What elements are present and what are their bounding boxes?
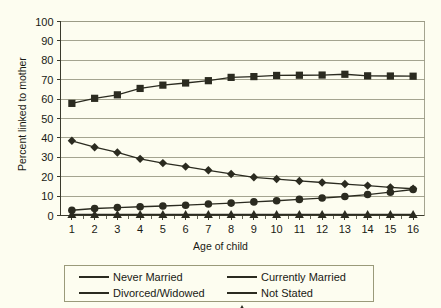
data-point-circle (341, 193, 349, 201)
data-point-circle (250, 198, 258, 206)
data-point-square (182, 79, 189, 86)
data-point-square (410, 73, 417, 80)
y-axis-tick-label: 0 (47, 210, 53, 222)
x-axis-tick-label: 4 (137, 223, 143, 235)
data-point-circle (136, 203, 144, 211)
legend-label: Not Stated (261, 287, 313, 299)
legend-marker-diamond-icon (79, 271, 109, 283)
data-point-square (341, 71, 348, 78)
data-point-circle (296, 196, 304, 204)
x-axis-tick-label: 7 (205, 223, 211, 235)
chart-legend: Never Married Currently Married Divorced… (64, 265, 374, 302)
x-axis-title: Age of child (0, 240, 441, 252)
y-axis-tick-label: 70 (41, 74, 53, 86)
data-point-square (114, 91, 121, 98)
x-axis-tick-label: 2 (92, 223, 98, 235)
legend-label: Currently Married (261, 271, 346, 283)
y-axis-tick-label: 80 (41, 54, 53, 66)
data-point-square (319, 71, 326, 78)
data-point-circle (364, 191, 372, 199)
x-axis-tick-label: 10 (271, 223, 283, 235)
data-point-circle (409, 186, 417, 194)
data-point-circle (205, 200, 213, 208)
legend-item-divorced-widowed: Divorced/Widowed (79, 286, 205, 300)
x-axis-tick-label: 8 (228, 223, 234, 235)
data-point-square (205, 77, 212, 84)
legend-marker-square-icon (227, 271, 257, 283)
data-point-square (296, 72, 303, 79)
y-axis-tick-label: 40 (41, 132, 53, 144)
y-axis-tick-label: 20 (41, 171, 53, 183)
x-axis-tick-label: 11 (294, 223, 305, 235)
x-axis-tick-label: 13 (339, 223, 351, 235)
x-axis-tick-label: 14 (362, 223, 374, 235)
legend-item-not-stated: Not Stated (227, 286, 313, 300)
x-axis-tick-label: 16 (407, 223, 419, 235)
chart-plot-area: 0102030405060708090100123456789101112131… (0, 0, 441, 308)
data-point-circle (182, 201, 190, 209)
data-point-circle (387, 188, 395, 196)
y-axis-tick-label: 10 (41, 190, 53, 202)
x-axis-tick-label: 12 (316, 223, 328, 235)
y-axis-tick-label: 100 (35, 16, 53, 28)
x-axis-tick-label: 9 (251, 223, 257, 235)
data-point-square (387, 72, 394, 79)
data-point-square (228, 74, 235, 81)
y-axis-tick-label: 60 (41, 93, 53, 105)
x-axis-tick-label: 1 (69, 223, 75, 235)
line-chart: 0102030405060708090100123456789101112131… (0, 0, 441, 308)
y-axis-tick-label: 90 (41, 35, 53, 47)
x-axis-tick-label: 6 (183, 223, 189, 235)
data-point-circle (227, 199, 235, 207)
data-point-square (364, 72, 371, 79)
legend-item-currently-married: Currently Married (227, 270, 346, 284)
legend-marker-circle-icon (79, 287, 109, 299)
x-axis-tick-label: 15 (384, 223, 396, 235)
data-point-square (273, 72, 280, 79)
data-point-circle (273, 197, 281, 205)
x-axis-tick-label: 3 (114, 223, 120, 235)
y-axis-tick-label: 30 (41, 151, 53, 163)
legend-label: Never Married (113, 271, 183, 283)
y-axis-tick-label: 50 (41, 113, 53, 125)
data-point-square (159, 82, 166, 89)
data-point-circle (318, 194, 326, 202)
data-point-square (68, 100, 75, 107)
legend-marker-triangle-icon (227, 287, 257, 299)
x-axis-tick-label: 5 (160, 223, 166, 235)
legend-label: Divorced/Widowed (113, 287, 205, 299)
data-point-square (91, 95, 98, 102)
y-axis-title: Percent linked to mother (16, 57, 28, 171)
data-point-circle (159, 202, 167, 210)
data-point-square (137, 85, 144, 92)
data-point-square (250, 73, 257, 80)
legend-item-never-married: Never Married (79, 270, 183, 284)
